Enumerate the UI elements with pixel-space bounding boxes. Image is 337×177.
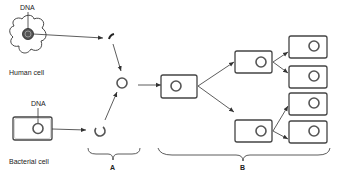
recombinant-plasmid bbox=[117, 78, 127, 88]
stage-a-label: A bbox=[110, 164, 115, 171]
granddaughter-cell-4 bbox=[289, 121, 327, 143]
brace-a bbox=[88, 148, 140, 160]
arrow-d1-down bbox=[273, 62, 288, 73]
transformed-bacterium bbox=[161, 75, 197, 98]
stage-b-label: B bbox=[240, 164, 245, 171]
daughter-cell-2 bbox=[235, 120, 272, 142]
brace-b bbox=[158, 148, 330, 161]
arrow-d2-down bbox=[273, 131, 288, 139]
human-cell: DNA Human cell bbox=[9, 4, 46, 76]
granddaughter-cell-2 bbox=[289, 66, 327, 88]
arrow-extract-plasmid bbox=[52, 129, 86, 130]
opened-plasmid bbox=[95, 127, 105, 136]
granddaughter-cell-1 bbox=[289, 36, 327, 58]
arrow-divide-up bbox=[198, 62, 234, 86]
bacterial-cell-label: Bacterial cell bbox=[9, 158, 49, 165]
human-dna-fragment bbox=[109, 34, 114, 39]
human-dna-label: DNA bbox=[20, 4, 35, 11]
cloning-diagram: DNA Human cell DNA Bacterial cell bbox=[0, 0, 337, 177]
bacterial-cell: DNA Bacterial cell bbox=[9, 100, 52, 165]
arrow-d1-up bbox=[273, 52, 288, 62]
bacterial-plasmid bbox=[33, 124, 43, 134]
arrow-divide-down bbox=[198, 86, 234, 112]
granddaughter-cell-3 bbox=[289, 93, 327, 115]
arrow-insert-gene bbox=[113, 44, 121, 71]
arrow-d2-up bbox=[273, 106, 288, 131]
human-nucleus bbox=[23, 29, 34, 40]
daughter-cell-1 bbox=[235, 51, 272, 73]
arrow-plasmid-to-recombinant bbox=[105, 92, 117, 120]
human-cell-label: Human cell bbox=[9, 69, 44, 76]
arrow-extract-dna bbox=[33, 34, 103, 38]
bacterial-dna-label: DNA bbox=[31, 100, 46, 107]
